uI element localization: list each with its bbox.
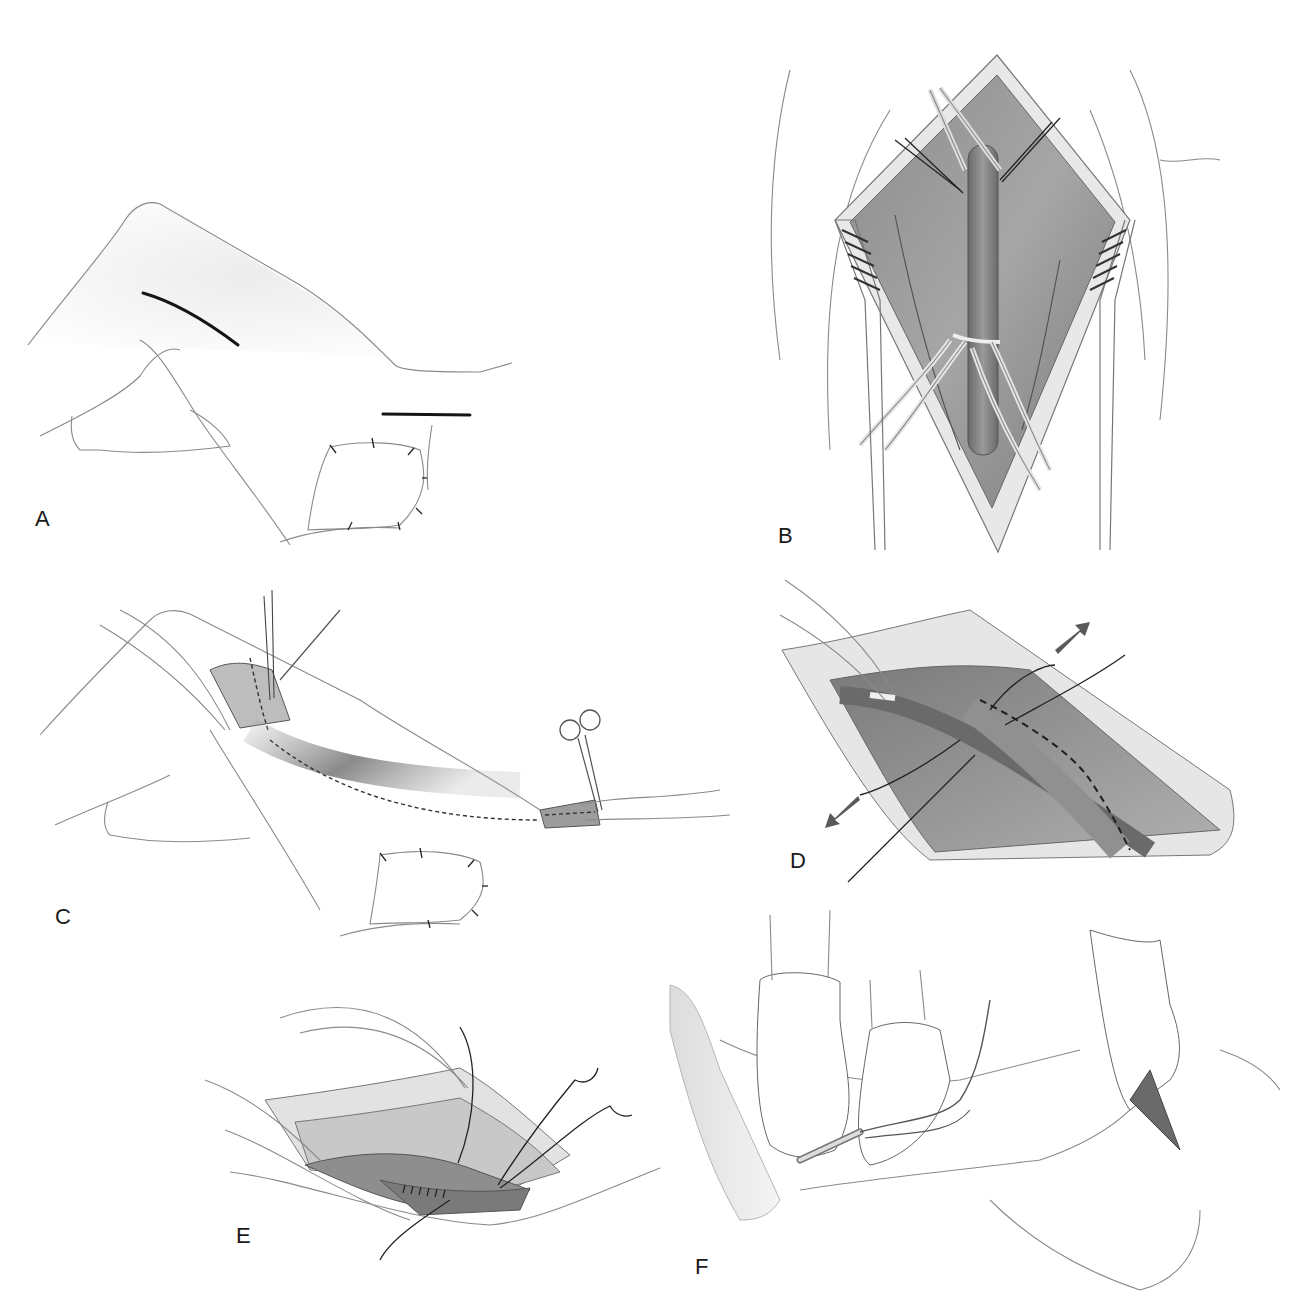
panel-label-c: C	[55, 906, 71, 928]
panel-label-a: A	[35, 508, 50, 530]
panel-label-f: F	[695, 1256, 708, 1278]
anastomosis-illustration	[770, 570, 1270, 890]
leg-incision-illustration	[0, 150, 760, 550]
panel-a: A	[0, 150, 760, 550]
panel-e: E	[200, 940, 670, 1270]
panel-d: D	[770, 570, 1270, 890]
panel-f: F	[660, 870, 1300, 1306]
panel-label-e: E	[236, 1225, 251, 1247]
graft-tunnel-illustration	[40, 580, 760, 940]
groin-exposure-illustration	[760, 30, 1260, 560]
panel-c: C	[40, 580, 760, 940]
panel-b: B	[760, 30, 1260, 560]
catheter-placement-illustration	[660, 870, 1300, 1306]
suture-line-illustration	[200, 940, 670, 1270]
panel-label-d: D	[790, 850, 806, 872]
panel-label-b: B	[778, 525, 793, 547]
surgical-figure: A	[0, 0, 1300, 1306]
